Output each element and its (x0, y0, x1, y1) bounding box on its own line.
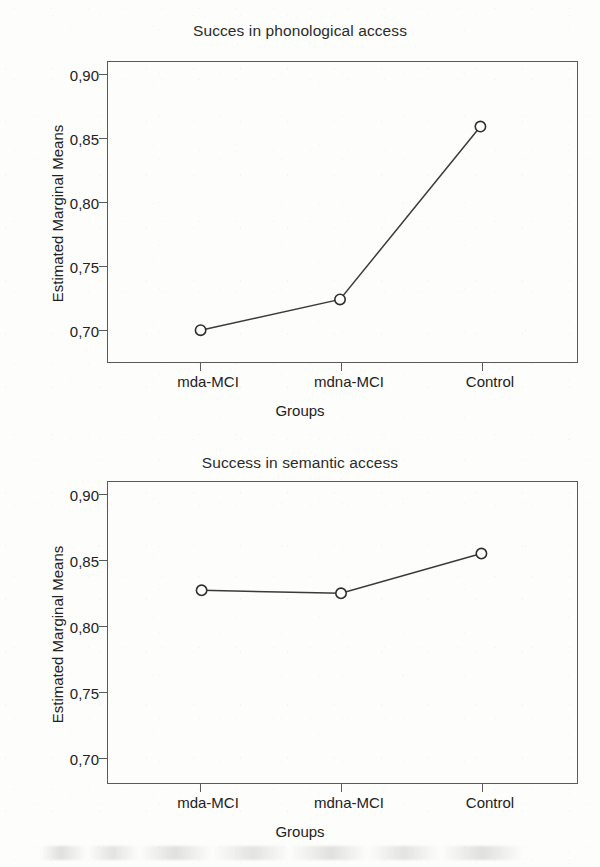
data-series-svg (108, 482, 577, 783)
page-bottom-artifact (40, 846, 560, 860)
chart-title: Succes in phonological access (0, 22, 600, 40)
figure-page: Succes in phonological access Estimated … (0, 0, 600, 867)
y-tick-mark (99, 74, 107, 75)
y-tick-label: 0,70 (35, 752, 99, 767)
chart-phonological-access: Succes in phonological access Estimated … (0, 0, 600, 432)
y-tick-label: 0,90 (35, 68, 99, 83)
y-tick-mark (99, 692, 107, 693)
y-tick-mark (99, 138, 107, 139)
x-tick-label: Control (420, 373, 560, 390)
plot-area (107, 61, 578, 363)
x-tick-labels: mda-MCI mdna-MCI Control (107, 373, 578, 397)
x-tick-mark (341, 363, 342, 371)
y-tick-mark (99, 266, 107, 267)
y-tick-mark (99, 626, 107, 627)
data-point-marker (195, 325, 205, 335)
x-tick-labels: mda-MCI mdna-MCI Control (107, 794, 578, 818)
y-tick-labels: 0,90 0,85 0,80 0,75 0,70 (29, 481, 99, 784)
data-point-marker (476, 548, 486, 558)
x-axis-label: Groups (0, 402, 600, 419)
y-tick-mark (99, 494, 107, 495)
y-tick-label: 0,70 (35, 324, 99, 339)
x-tick-label: mdna-MCI (279, 794, 419, 811)
data-point-marker (336, 588, 346, 598)
y-tick-label: 0,90 (35, 488, 99, 503)
y-tick-mark (99, 330, 107, 331)
data-series-svg (108, 62, 577, 362)
x-tick-mark (482, 363, 483, 371)
y-tick-mark (99, 202, 107, 203)
y-tick-mark (99, 560, 107, 561)
y-tick-labels: 0,90 0,85 0,80 0,75 0,70 (29, 61, 99, 363)
y-tick-label: 0,80 (35, 620, 99, 635)
x-tick-label: mda-MCI (138, 373, 278, 390)
x-tick-mark (200, 784, 201, 792)
x-tick-label: mdna-MCI (279, 373, 419, 390)
series-line (202, 554, 482, 594)
data-point-marker (335, 294, 345, 304)
x-axis-label: Groups (0, 823, 600, 840)
data-point-marker (196, 585, 206, 595)
x-tick-mark (341, 784, 342, 792)
data-point-marker (475, 121, 485, 131)
y-tick-label: 0,75 (35, 260, 99, 275)
chart-title: Success in semantic access (0, 454, 600, 472)
x-tick-label: Control (420, 794, 560, 811)
plot-area (107, 481, 578, 784)
y-tick-label: 0,80 (35, 196, 99, 211)
chart-semantic-access: Success in semantic access Estimated Mar… (0, 432, 600, 867)
x-tick-mark (200, 363, 201, 371)
x-tick-label: mda-MCI (138, 794, 278, 811)
y-tick-label: 0,85 (35, 554, 99, 569)
y-tick-label: 0,75 (35, 686, 99, 701)
x-tick-mark (482, 784, 483, 792)
y-tick-label: 0,85 (35, 132, 99, 147)
y-tick-mark (99, 758, 107, 759)
